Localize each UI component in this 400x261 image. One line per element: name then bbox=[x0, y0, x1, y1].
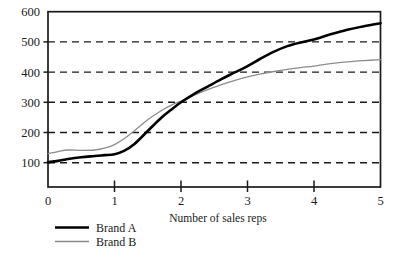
ytick-label-600: 600 bbox=[21, 5, 40, 19]
xtick-label-5: 5 bbox=[377, 194, 383, 208]
xtick-label-2: 2 bbox=[178, 194, 184, 208]
xtick-label-0: 0 bbox=[45, 194, 51, 208]
sales-line-chart: 600 500 400 300 200 100 0 1 2 3 4 5 Numb… bbox=[0, 0, 400, 261]
ytick-label-100: 100 bbox=[21, 156, 40, 170]
legend-label-brand-a: Brand A bbox=[96, 221, 137, 235]
xtick-label-1: 1 bbox=[111, 194, 117, 208]
xtick-label-3: 3 bbox=[244, 194, 250, 208]
ytick-label-500: 500 bbox=[21, 35, 40, 49]
ytick-label-200: 200 bbox=[21, 126, 40, 140]
xtick-label-4: 4 bbox=[311, 194, 318, 208]
legend-label-brand-b: Brand B bbox=[96, 235, 136, 249]
ytick-label-400: 400 bbox=[21, 66, 40, 80]
ytick-label-300: 300 bbox=[21, 96, 40, 110]
x-axis-title: Number of sales reps bbox=[169, 212, 267, 225]
